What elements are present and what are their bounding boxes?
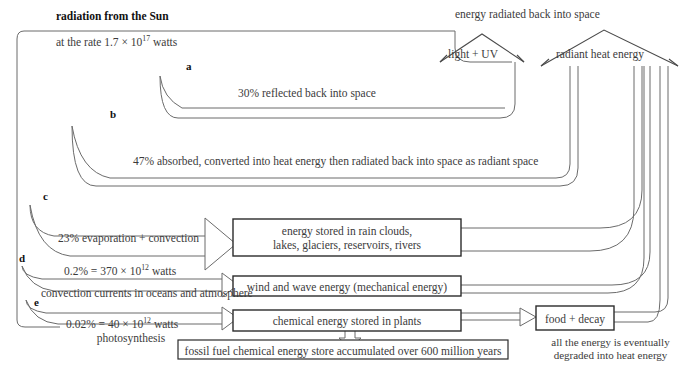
box-food-decay-text: food + decay <box>536 312 614 326</box>
box-fossil-fuel-text: fossil fuel chemical energy store accumu… <box>178 344 508 358</box>
flow-label-c: 23% evaporation + convection <box>58 232 199 246</box>
box-store-water-text: energy stored in rain clouds, lakes, gla… <box>233 224 461 252</box>
flow-label-a: 30% reflected back into space <box>238 87 376 101</box>
branch-letter-d: d <box>19 252 25 265</box>
box-store-water-line2: lakes, glaciers, reservoirs, rivers <box>233 238 461 252</box>
source-rate-label: at the rate 1.7 × 1017 watts <box>56 36 177 50</box>
branch-letter-b: b <box>110 108 116 121</box>
footnote: all the energy is eventually degraded in… <box>528 336 693 362</box>
branch-letter-c: c <box>43 190 48 203</box>
flow-sublabel-e: photosynthesis <box>66 332 196 346</box>
flow-sublabel-d: convection currents in oceans and atmosp… <box>41 287 231 301</box>
branch-letter-a: a <box>186 60 192 73</box>
radiant-heat-label: radiant heat energy <box>556 48 644 62</box>
top-caption: energy radiated back into space <box>455 8 600 22</box>
arrowhead-to-food-decay <box>520 308 536 326</box>
flow-label-d: 0.2% = 370 × 1012 watts <box>64 265 176 279</box>
footnote-line2: degraded into heat energy <box>528 349 693 362</box>
page-title: radiation from the Sun <box>56 10 169 24</box>
energy-flow-diagram: radiation from the Sun at the rate 1.7 ×… <box>0 0 700 370</box>
box-chemical-plants-text: chemical energy stored in plants <box>233 314 461 328</box>
flow-label-b: 47% absorbed, converted into heat energy… <box>133 155 538 169</box>
arrowhead-to-water-store <box>205 218 236 270</box>
flow-label-e: 0.02% = 40 × 1012 watts <box>66 318 178 332</box>
box-wind-wave-text: wind and wave energy (mechanical energy) <box>233 280 461 294</box>
box-store-water-line1: energy stored in rain clouds, <box>233 224 461 238</box>
branch-letter-e: e <box>34 296 39 309</box>
light-uv-label: light + UV <box>448 48 498 62</box>
footnote-line1: all the energy is eventually <box>528 336 693 349</box>
